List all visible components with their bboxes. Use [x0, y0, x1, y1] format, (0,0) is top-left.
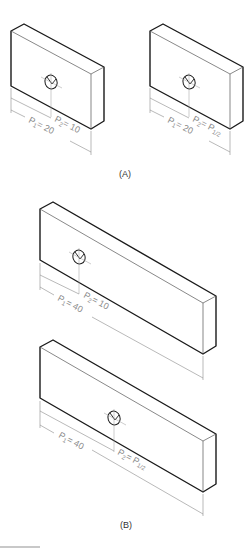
top-right-edge [203, 434, 216, 441]
p1-dimension-line [11, 110, 25, 117]
plate-a-left: P1= 20 P2= 10 [11, 24, 104, 155]
p1-label: P1= 40 [56, 293, 85, 315]
front-top-edge [40, 347, 203, 441]
front-top-edge [40, 209, 203, 303]
p1-dimension-line [40, 287, 54, 295]
p1-dimension-line [92, 317, 203, 378]
centerline [179, 77, 200, 88]
centerline [41, 77, 62, 88]
plate-b-top: P1= 40 P2= 10 [40, 202, 216, 380]
plate-a-right: P1= 20 P2= P1/2 [150, 24, 243, 155]
panel-label-b: (B) [120, 520, 132, 530]
centerline [104, 413, 126, 425]
top-right-edge [91, 67, 104, 74]
top-right-edge [230, 67, 243, 74]
p1-dimension-line [40, 425, 54, 433]
top-right-edge [203, 296, 216, 303]
front-top-edge [11, 31, 91, 74]
isometric-plates-diagram: P1= 20 P2= 10 P1= 20 P2= P1/2 (A) [0, 0, 250, 549]
p1-label: P1= 20 [27, 115, 56, 137]
p2-label: P2= 10 [82, 290, 111, 312]
centerline [69, 252, 91, 264]
p2-label: P2= 10 [53, 114, 82, 136]
plate-b-bottom: P1= 40 P2= P1/2 [40, 340, 216, 516]
front-top-edge [150, 31, 230, 74]
p1-dimension-line [70, 141, 91, 152]
p1-dimension-line [150, 110, 164, 117]
p2-dimension-line [40, 275, 79, 294]
p1-label: P1= 20 [166, 115, 195, 137]
footer-rule [0, 546, 40, 548]
panel-label-a: (A) [119, 169, 131, 179]
p1-dimension-line [209, 141, 230, 152]
plate-outline [40, 202, 216, 354]
plate-outline [40, 340, 216, 492]
